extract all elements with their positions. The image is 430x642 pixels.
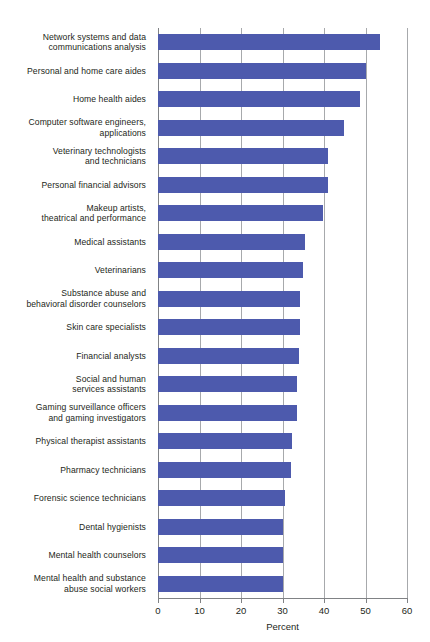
x-tick-label-60: 60 bbox=[402, 604, 413, 617]
category-label: Mental health and substanceabuse social … bbox=[0, 570, 146, 598]
bar bbox=[158, 348, 299, 364]
bar-row bbox=[158, 114, 407, 142]
x-tick-label-0: 0 bbox=[155, 604, 160, 617]
x-tick-label-10: 10 bbox=[194, 604, 205, 617]
category-label-line: Computer software engineers, bbox=[28, 117, 146, 127]
category-label-line: applications bbox=[100, 128, 146, 138]
x-tick-40 bbox=[324, 598, 325, 603]
category-label-line: Mental health and substance bbox=[34, 573, 146, 583]
bar bbox=[158, 234, 305, 250]
bar bbox=[158, 490, 285, 506]
category-label: Dental hygienists bbox=[0, 513, 146, 541]
category-label: Veterinary technologistsand technicians bbox=[0, 142, 146, 170]
x-tick-label-20: 20 bbox=[236, 604, 247, 617]
category-label-line: Veterinary technologists bbox=[53, 146, 146, 156]
bar-row bbox=[158, 142, 407, 170]
category-label: Home health aides bbox=[0, 85, 146, 113]
plot-area bbox=[158, 28, 407, 598]
category-label-line: services assistants bbox=[72, 384, 146, 394]
category-label-line: Personal and home care aides bbox=[27, 66, 146, 76]
category-label-line: Makeup artists, bbox=[86, 203, 146, 213]
category-label-line: Skin care specialists bbox=[66, 322, 146, 332]
category-label-line: Financial analysts bbox=[76, 351, 146, 361]
category-label: Gaming surveillance officersand gaming i… bbox=[0, 399, 146, 427]
bar bbox=[158, 34, 380, 50]
category-label-line: abuse social workers bbox=[64, 584, 146, 594]
x-tick-0 bbox=[158, 598, 159, 603]
bar bbox=[158, 576, 283, 592]
category-label-line: Gaming surveillance officers bbox=[36, 402, 146, 412]
x-tick-30 bbox=[283, 598, 284, 603]
category-axis-labels: Network systems and datacommunications a… bbox=[0, 28, 152, 598]
bar bbox=[158, 91, 360, 107]
category-label: Personal financial advisors bbox=[0, 171, 146, 199]
bar bbox=[158, 148, 328, 164]
category-label: Pharmacy technicians bbox=[0, 456, 146, 484]
bar-row bbox=[158, 57, 407, 85]
bar-row bbox=[158, 484, 407, 512]
category-label: Forensic science technicians bbox=[0, 484, 146, 512]
category-label-line: communications analysis bbox=[48, 42, 146, 52]
bar-row bbox=[158, 570, 407, 598]
bar bbox=[158, 205, 323, 221]
category-label: Mental health counselors bbox=[0, 541, 146, 569]
category-label-line: Substance abuse and bbox=[61, 288, 146, 298]
bar bbox=[158, 547, 283, 563]
bar-row bbox=[158, 28, 407, 56]
category-label-line: Forensic science technicians bbox=[34, 493, 146, 503]
x-tick-label-30: 30 bbox=[277, 604, 288, 617]
category-label: Personal and home care aides bbox=[0, 57, 146, 85]
category-label-line: Medical assistants bbox=[74, 237, 146, 247]
bar-row bbox=[158, 342, 407, 370]
category-label-line: behavioral disorder counselors bbox=[26, 299, 146, 309]
bar-row bbox=[158, 228, 407, 256]
bar bbox=[158, 120, 344, 136]
x-axis-ticks bbox=[158, 598, 407, 603]
category-label: Medical assistants bbox=[0, 228, 146, 256]
category-label-line: Pharmacy technicians bbox=[60, 465, 146, 475]
bar-row bbox=[158, 541, 407, 569]
category-label-line: theatrical and performance bbox=[42, 213, 146, 223]
category-label-line: Mental health counselors bbox=[48, 550, 146, 560]
bar bbox=[158, 63, 366, 79]
category-label-line: Personal financial advisors bbox=[41, 180, 146, 190]
gridline-60 bbox=[407, 28, 408, 598]
category-label-line: Veterinarians bbox=[95, 265, 146, 275]
category-label-line: Physical therapist assistants bbox=[36, 436, 146, 446]
bar-row bbox=[158, 85, 407, 113]
category-label: Physical therapist assistants bbox=[0, 427, 146, 455]
bar bbox=[158, 291, 300, 307]
category-label-line: and technicians bbox=[85, 156, 146, 166]
x-axis-tick-labels: 0102030405060 bbox=[158, 604, 407, 618]
bar bbox=[158, 177, 328, 193]
bar-row bbox=[158, 370, 407, 398]
bar bbox=[158, 376, 297, 392]
x-tick-label-40: 40 bbox=[319, 604, 330, 617]
category-label-line: Social and human bbox=[76, 374, 146, 384]
category-label: Makeup artists,theatrical and performanc… bbox=[0, 199, 146, 227]
bar-row bbox=[158, 427, 407, 455]
bar bbox=[158, 262, 303, 278]
x-tick-50 bbox=[366, 598, 367, 603]
bar bbox=[158, 405, 297, 421]
bar-row bbox=[158, 399, 407, 427]
x-tick-label-50: 50 bbox=[360, 604, 371, 617]
category-label-line: Home health aides bbox=[73, 94, 146, 104]
category-label: Veterinarians bbox=[0, 256, 146, 284]
bar-row bbox=[158, 513, 407, 541]
category-label-line: Dental hygienists bbox=[79, 522, 146, 532]
x-tick-20 bbox=[241, 598, 242, 603]
bar-row bbox=[158, 313, 407, 341]
bar bbox=[158, 319, 300, 335]
bar-row bbox=[158, 456, 407, 484]
x-axis-title: Percent bbox=[158, 621, 407, 632]
category-label: Substance abuse andbehavioral disorder c… bbox=[0, 285, 146, 313]
x-tick-10 bbox=[200, 598, 201, 603]
category-label: Skin care specialists bbox=[0, 313, 146, 341]
bar bbox=[158, 519, 283, 535]
x-tick-60 bbox=[407, 598, 408, 603]
category-label: Social and humanservices assistants bbox=[0, 370, 146, 398]
bar-series bbox=[158, 28, 407, 598]
bar-row bbox=[158, 199, 407, 227]
category-label: Financial analysts bbox=[0, 342, 146, 370]
